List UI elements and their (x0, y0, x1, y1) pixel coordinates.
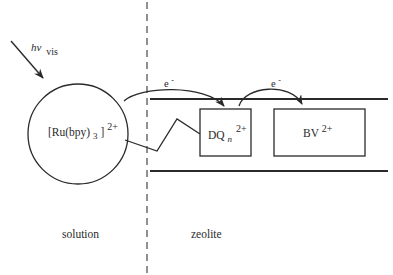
region-label-solution: solution (62, 228, 99, 240)
relay-sub: n (228, 134, 233, 144)
electron-transfer-arrow-1 (124, 90, 224, 106)
light-label-main: hν (31, 41, 42, 53)
light-label: hν vis (31, 41, 58, 57)
sensitizer-close: ] (100, 126, 104, 138)
sensitizer-sub: 3 (93, 131, 98, 141)
acceptor-sup: 2+ (322, 123, 333, 134)
electron-transfer-label-1: e - (164, 76, 174, 89)
zigzag-tether (125, 119, 200, 151)
electron-1-sup: - (171, 76, 174, 85)
relay-sup: 2+ (236, 123, 247, 134)
sensitizer-label: [Ru(bpy) 3 ] 2+ (48, 121, 118, 141)
electron-transfer-arrow-2 (239, 89, 302, 106)
light-label-sub: vis (46, 46, 58, 57)
acceptor-main: BV (303, 127, 320, 139)
electron-2-main: e (271, 78, 276, 89)
sensitizer-main: [Ru(bpy) (48, 126, 90, 139)
electron-2-sup: - (278, 76, 281, 85)
relay-main: DQ (208, 129, 225, 141)
acceptor-label: BV 2+ (303, 123, 333, 139)
relay-label: DQ n 2+ (208, 123, 247, 144)
zeolite-electron-transfer-diagram: hν vis [Ru(bpy) 3 ] 2+ DQ n 2+ BV 2+ e -… (0, 0, 393, 275)
region-label-zeolite: zeolite (191, 228, 222, 240)
electron-transfer-label-2: e - (271, 76, 281, 89)
electron-1-main: e (164, 78, 169, 89)
sensitizer-sup: 2+ (107, 121, 118, 132)
